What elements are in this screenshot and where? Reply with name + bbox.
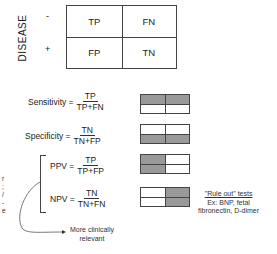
note-line: Ex: BNP, fetal <box>198 199 259 208</box>
note-line: relevant <box>70 235 114 244</box>
note-line: fibronectin, D-dimer <box>198 207 259 216</box>
rule-out-tests-note: "Rule out" tests Ex: BNP, fetal fibronec… <box>198 190 259 216</box>
rule-out-title: "Rule out" tests <box>198 190 259 199</box>
curved-arrow-icon <box>0 0 277 254</box>
more-clinically-relevant-note: More clinically relevant <box>70 226 114 243</box>
note-line: More clinically <box>70 226 114 235</box>
cropped-text-fragment: r;/-e <box>2 175 6 215</box>
